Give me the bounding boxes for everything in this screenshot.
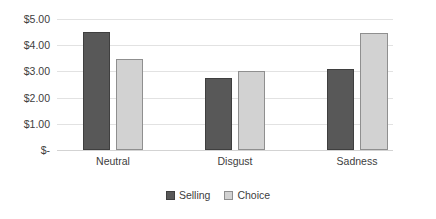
legend-swatch-selling-icon [166, 191, 175, 200]
bar-chart: $5.00 $4.00 $3.00 $2.00 $1.00 $- Neutral… [0, 0, 436, 219]
legend-label-choice: Choice [237, 190, 270, 201]
bar-sadness-selling [327, 69, 354, 150]
y-axis-tick-label-4: $4.00 [0, 40, 50, 51]
y-axis-tick-label-3: $3.00 [0, 66, 50, 77]
plot-area [57, 19, 393, 150]
y-axis-tick-label-0: $- [0, 145, 50, 156]
gridline-baseline [57, 150, 393, 151]
bar-neutral-selling [83, 32, 110, 150]
legend-swatch-choice-icon [224, 191, 233, 200]
x-axis-label-disgust: Disgust [195, 155, 275, 168]
bar-neutral-choice [116, 59, 143, 150]
y-axis-tick-label-1: $1.00 [0, 119, 50, 130]
legend-item-selling[interactable]: Selling [166, 190, 211, 201]
y-axis-tick-label-5: $5.00 [0, 14, 50, 25]
y-axis-tick-label-2: $2.00 [0, 93, 50, 104]
x-axis-label-sadness: Sadness [317, 155, 397, 168]
bar-disgust-choice [238, 71, 265, 150]
bar-disgust-selling [205, 78, 232, 150]
legend-item-choice[interactable]: Choice [224, 190, 270, 201]
chart-legend: Selling Choice [0, 190, 436, 201]
legend-label-selling: Selling [179, 190, 211, 201]
gridline-5 [57, 19, 393, 20]
bar-sadness-choice [360, 33, 388, 150]
x-axis-label-neutral: Neutral [73, 155, 153, 168]
